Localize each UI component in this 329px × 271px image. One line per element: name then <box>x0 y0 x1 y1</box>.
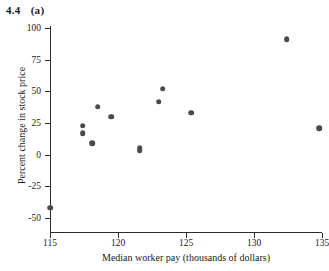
data-point <box>156 99 162 105</box>
data-point <box>160 86 166 92</box>
data-point <box>95 104 101 110</box>
y-axis-line <box>50 26 51 233</box>
scatter-plot: 1007550250-25-50 115120125130135 Median … <box>0 0 329 271</box>
data-point <box>137 148 143 154</box>
x-tick-label: 135 <box>315 238 329 248</box>
y-tick-mark <box>45 218 50 219</box>
data-point <box>89 141 95 147</box>
figure-container: 4.4(a) 1007550250-25-50 115120125130135 … <box>0 0 329 271</box>
data-point <box>108 114 114 120</box>
y-tick-mark <box>45 186 50 187</box>
y-tick-mark <box>45 28 50 29</box>
data-point <box>80 123 86 129</box>
data-point <box>317 125 323 131</box>
x-tick-label: 130 <box>247 238 261 248</box>
data-point <box>284 37 290 43</box>
y-axis-title: Percent change in stock price <box>16 31 27 221</box>
data-point <box>47 205 53 211</box>
y-tick-mark <box>45 60 50 61</box>
x-tick-label: 115 <box>43 238 57 248</box>
data-point <box>189 110 195 116</box>
x-tick-label: 125 <box>179 238 193 248</box>
data-point <box>80 130 86 136</box>
y-tick-mark <box>45 155 50 156</box>
x-axis-title: Median worker pay (thousands of dollars) <box>50 252 322 263</box>
x-tick-label: 120 <box>111 238 125 248</box>
y-tick-mark <box>45 123 50 124</box>
y-tick-mark <box>45 91 50 92</box>
